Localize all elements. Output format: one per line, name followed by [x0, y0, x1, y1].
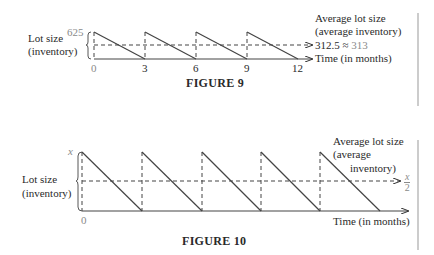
- figure10-brace: [76, 152, 82, 211]
- figure9-avg-value: 312.5 ≈ 313: [315, 39, 368, 52]
- figure9-avg-label-line2: (average inventory): [315, 25, 401, 38]
- figure9-x-tick-12: 12: [292, 62, 303, 75]
- figure10-x-origin-label: 0: [81, 214, 87, 227]
- figure9-brace: [86, 32, 91, 59]
- figure10-avg-label-line3: inventory): [350, 162, 396, 175]
- figure9-x-tick-9: 9: [244, 62, 250, 75]
- figure10-caption: FIGURE 10: [182, 234, 246, 249]
- figure10-avg-label-line2: (average: [333, 148, 371, 161]
- figure10-xlabel: Time (in months): [333, 215, 410, 228]
- figure10-sawtooth-2: [142, 152, 202, 211]
- figure10-y-top-label: x: [68, 145, 73, 158]
- figure10-ylabel-line2: (inventory): [22, 187, 71, 200]
- figure10-avg-label-line1: Average lot size: [333, 135, 404, 148]
- figure9-y-top-label: 625: [67, 26, 84, 39]
- figure10-avg-fraction: x 2: [404, 172, 410, 193]
- figure10-ylabel-line1: Lot size: [22, 173, 57, 186]
- figure9-x-tick-6: 6: [193, 62, 199, 75]
- figure9-xlabel: Time (in months): [315, 52, 392, 65]
- figure9-ylabel-line1: Lot size: [28, 32, 63, 45]
- figure9-caption: FIGURE 9: [186, 76, 244, 91]
- figure10-sawtooth-4: [261, 152, 320, 211]
- figure9-sawtooth-3: [196, 32, 247, 59]
- figure9-avg-label-line1: Average lot size: [315, 12, 386, 25]
- figure9-ylabel-line2: (inventory): [28, 45, 77, 58]
- figure9-x-tick-0: 0: [91, 62, 97, 75]
- figure9-x-tick-3: 3: [142, 62, 148, 75]
- figure9-plot: [86, 32, 312, 59]
